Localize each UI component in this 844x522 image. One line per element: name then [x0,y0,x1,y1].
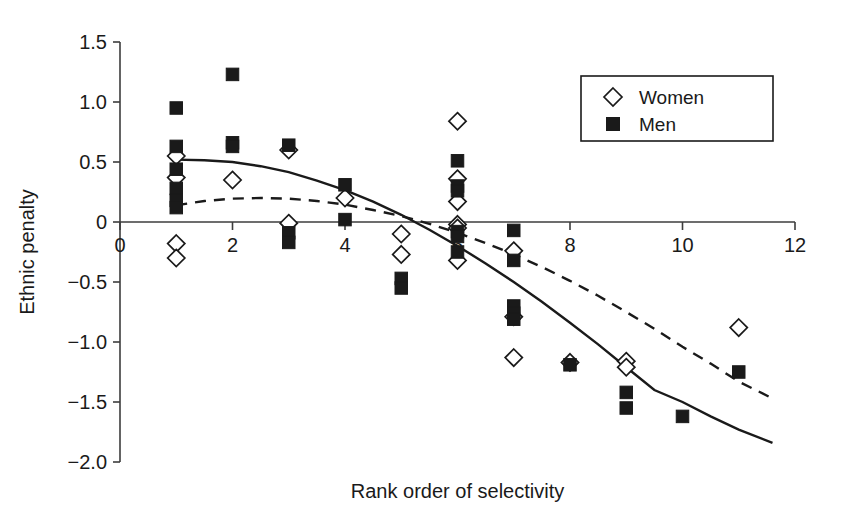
fit-lines [176,160,772,443]
x-axis-title: Rank order of selectivity [351,480,564,502]
data-point-men [508,224,521,237]
y-axis-title: Ethnic penalty [16,189,38,315]
data-point-men [170,102,183,115]
data-point-men [283,139,296,152]
data-point-men [339,213,352,226]
y-axis-tick-label: −1.5 [68,391,107,413]
chart-figure: 1.51.00.50−0.5−1.0−1.5−2.0024681012 Ethn… [0,0,844,522]
data-point-men [395,282,408,295]
x-axis-tick-label: 0 [114,234,125,256]
legend-label-women: Women [639,87,704,108]
x-axis-tick-label: 8 [564,234,575,256]
legend-marker-men [607,118,620,131]
data-point-women [393,225,410,242]
data-point-women [224,171,241,188]
x-axis-tick-label: 2 [227,234,238,256]
y-axis-tick-label: −1.0 [68,331,107,353]
data-point-women [168,249,185,266]
data-point-men [508,254,521,267]
y-axis-tick-label: 0 [96,211,107,233]
data-point-men [451,246,464,259]
data-point-men [508,313,521,326]
y-axis-tick-label: 1.5 [79,31,107,53]
data-point-men [620,386,633,399]
data-point-men [451,185,464,198]
legend-box [581,76,773,141]
data-point-women [505,349,522,366]
legend-label-men: Men [639,114,676,135]
data-point-women [393,246,410,263]
data-point-men [226,68,239,81]
data-point-men [170,140,183,153]
x-axis-tick-label: 4 [339,234,350,256]
y-axis-tick-label: 1.0 [79,91,107,113]
scatter-plot: 1.51.00.50−0.5−1.0−1.5−2.0024681012 Ethn… [0,0,844,522]
data-point-men [170,163,183,176]
data-point-men [283,236,296,249]
y-axis-tick-label: −2.0 [68,451,107,473]
data-point-men [564,359,577,372]
data-point-men [620,402,633,415]
y-axis-tick-label: −0.5 [68,271,107,293]
data-point-men [676,410,689,423]
data-point-men [451,230,464,243]
data-point-men [451,155,464,168]
data-point-women [730,319,747,336]
data-point-men [170,201,183,214]
data-point-men [170,182,183,195]
x-axis-tick-label: 10 [671,234,693,256]
men-fit-curve [176,160,772,443]
data-point-men [733,366,746,379]
data-point-men [339,179,352,192]
data-point-women [449,113,466,130]
x-axis-tick-label: 12 [784,234,806,256]
y-axis-tick-label: 0.5 [79,151,107,173]
data-point-men [226,140,239,153]
chart-legend: WomenMen [581,76,773,141]
